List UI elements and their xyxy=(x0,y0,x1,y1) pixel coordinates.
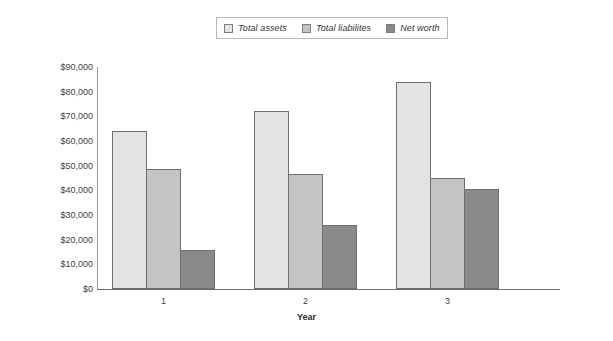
bar-group xyxy=(112,67,214,289)
x-axis-tick-label: 3 xyxy=(445,296,450,306)
legend-label-net-worth: Net worth xyxy=(400,23,439,33)
bar-net-worth[interactable] xyxy=(180,250,215,289)
legend-swatch-total-liabilites xyxy=(302,24,311,33)
legend-label-total-liabilites: Total liabilites xyxy=(316,23,371,33)
y-axis-tick-label: $50,000 xyxy=(60,161,93,171)
x-axis-tick-label: 2 xyxy=(303,296,308,306)
chart-legend: Total assets Total liabilites Net worth xyxy=(216,17,448,39)
x-axis-line xyxy=(97,289,560,290)
legend-item-net-worth: Net worth xyxy=(386,23,439,33)
y-axis-tick-label: $90,000 xyxy=(60,62,93,72)
y-axis-tick-label: $0 xyxy=(83,284,93,294)
legend-item-total-liabilites: Total liabilites xyxy=(302,23,371,33)
bar-chart: Total assets Total liabilites Net worth … xyxy=(0,0,613,341)
bar-group xyxy=(254,67,356,289)
legend-swatch-total-assets xyxy=(224,24,233,33)
legend-swatch-net-worth xyxy=(386,24,395,33)
legend-label-total-assets: Total assets xyxy=(238,23,287,33)
bar-net-worth[interactable] xyxy=(464,189,499,289)
y-axis-tick-label: $40,000 xyxy=(60,185,93,195)
bar-net-worth[interactable] xyxy=(322,225,357,289)
x-axis-title: Year xyxy=(0,312,613,322)
y-axis-tick-label: $70,000 xyxy=(60,111,93,121)
y-axis-tick-label: $30,000 xyxy=(60,210,93,220)
y-axis-tick-label: $10,000 xyxy=(60,259,93,269)
bar-total-liabilites[interactable] xyxy=(288,174,323,289)
y-axis-tick-label: $80,000 xyxy=(60,87,93,97)
y-axis-tick-label: $60,000 xyxy=(60,136,93,146)
bar-group xyxy=(396,67,498,289)
bars-layer xyxy=(98,67,560,289)
legend-item-total-assets: Total assets xyxy=(224,23,287,33)
x-axis-tick-label: 1 xyxy=(161,296,166,306)
bar-total-liabilites[interactable] xyxy=(146,169,181,289)
bar-total-assets[interactable] xyxy=(254,111,289,289)
y-axis-tick-label: $20,000 xyxy=(60,235,93,245)
bar-total-assets[interactable] xyxy=(396,82,431,289)
bar-total-assets[interactable] xyxy=(112,131,147,289)
bar-total-liabilites[interactable] xyxy=(430,178,465,289)
plot-area xyxy=(97,67,560,289)
